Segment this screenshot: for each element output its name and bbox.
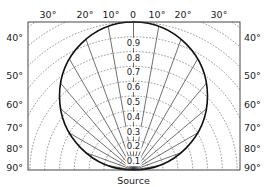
radial-scale-label: 0.2	[127, 141, 141, 151]
left-angle-label: 90°	[6, 162, 23, 173]
right-angle-label: 80°	[244, 143, 261, 154]
left-angle-label: 60°	[6, 99, 23, 110]
top-angle-label: 30°	[40, 9, 57, 20]
angle-ray	[19, 34, 133, 170]
left-angle-label: 70°	[6, 122, 23, 133]
right-angle-label: 90°	[244, 162, 261, 173]
angle-ray	[0, 109, 133, 170]
radial-scale-label: 0.9	[127, 38, 141, 48]
radial-scale-label: 0.4	[127, 112, 141, 122]
angle-ray	[134, 109, 268, 170]
left-angle-label: 40°	[6, 32, 23, 43]
polar-diagram: 30°20°10°010°20°30°40°50°60°70°80°90°40°…	[0, 0, 267, 187]
radial-scale-label: 0.3	[127, 127, 141, 137]
left-angle-label: 50°	[6, 70, 23, 81]
top-angle-label: 10°	[103, 9, 120, 20]
right-angle-label: 70°	[244, 122, 261, 133]
top-angle-label: 20°	[175, 9, 192, 20]
right-angle-label: 50°	[244, 70, 261, 81]
right-angle-label: 60°	[244, 99, 261, 110]
top-angle-label: 10°	[149, 9, 166, 20]
top-angle-label: 30°	[211, 9, 228, 20]
radial-scale-label: 0.8	[127, 53, 141, 63]
radial-scale-label: 0.7	[127, 67, 141, 77]
top-angle-label: 20°	[77, 9, 94, 20]
right-angle-label: 40°	[244, 32, 261, 43]
top-angle-label: 0	[130, 9, 136, 20]
source-label: Source	[117, 175, 150, 186]
angle-ray	[134, 34, 248, 170]
radial-scale-label: 0.6	[127, 82, 141, 92]
radial-scale-label: 0.1	[127, 156, 141, 166]
radial-scale-label: 0.5	[127, 97, 141, 107]
left-angle-label: 80°	[6, 143, 23, 154]
